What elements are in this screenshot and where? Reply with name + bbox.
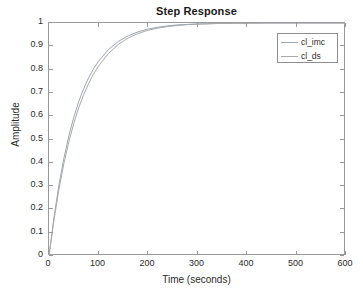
y-tick-mark [49,22,53,23]
y-tick-mark [340,115,344,116]
x-tick-label: 500 [276,258,316,268]
y-tick-mark [340,255,344,256]
x-tick-mark [48,23,49,27]
y-tick-mark [340,69,344,70]
y-tick-mark [49,255,53,256]
x-tick-label: 300 [177,258,217,268]
x-tick-mark [197,23,198,27]
x-tick-label: 0 [28,258,68,268]
y-tick-mark [340,185,344,186]
x-tick-label: 200 [127,258,167,268]
x-tick-label: 100 [78,258,118,268]
x-tick-mark [296,23,297,27]
x-axis-label: Time (seconds) [48,274,345,285]
y-tick-mark [49,232,53,233]
legend-line-swatch [281,56,298,57]
y-tick-mark [340,22,344,23]
y-tick-mark [49,208,53,209]
x-tick-mark [345,23,346,27]
legend-label: cl_ds [301,52,321,61]
y-tick-mark [340,139,344,140]
y-tick-mark [49,139,53,140]
y-tick-label: 0.9 [13,39,43,49]
x-tick-mark [98,251,99,255]
x-tick-label: 600 [325,258,363,268]
y-tick-mark [49,185,53,186]
x-tick-mark [345,251,346,255]
legend-entry-cl_imc[interactable]: cl_imc [278,35,337,49]
y-tick-label: 1 [13,16,43,26]
y-axis-label: Amplitude [10,65,21,185]
x-tick-mark [246,23,247,27]
legend-entry-cl_ds[interactable]: cl_ds [278,49,337,63]
x-tick-mark [147,251,148,255]
y-tick-mark [49,115,53,116]
legend-box[interactable]: cl_imccl_ds [277,33,338,63]
y-tick-mark [340,162,344,163]
x-tick-mark [246,251,247,255]
y-tick-mark [340,208,344,209]
x-tick-mark [98,23,99,27]
chart-title: Step Response [48,5,345,17]
y-tick-label: 0.1 [13,226,43,236]
y-tick-label: 0.2 [13,202,43,212]
figure-canvas: Step Response 010020030040050060000.10.2… [0,0,363,302]
legend-line-swatch [281,42,298,43]
x-tick-mark [147,23,148,27]
y-tick-mark [340,45,344,46]
y-tick-mark [49,162,53,163]
y-tick-mark [49,45,53,46]
legend-label: cl_imc [301,38,325,47]
y-tick-mark [49,69,53,70]
y-tick-mark [340,92,344,93]
x-tick-mark [296,251,297,255]
x-tick-label: 400 [226,258,266,268]
y-tick-mark [340,232,344,233]
y-tick-label: 0 [13,249,43,259]
y-tick-mark [49,92,53,93]
x-tick-mark [197,251,198,255]
